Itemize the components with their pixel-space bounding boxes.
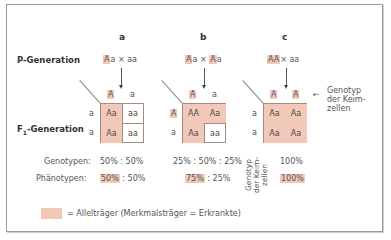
column-label-a: a bbox=[119, 32, 125, 42]
punnett-cell: Aa bbox=[101, 104, 123, 124]
punnett-square-b: AA Aa Aa aa bbox=[182, 103, 226, 143]
gamete-top: A bbox=[270, 90, 277, 99]
legend-swatch bbox=[41, 208, 62, 219]
punnett-cell: Aa bbox=[183, 123, 205, 143]
genotypes-a: 50% : 50% bbox=[100, 157, 143, 166]
column-label-b: b bbox=[200, 32, 206, 42]
punnett-cell: Aa bbox=[204, 104, 226, 124]
punnett-cell: Aa bbox=[264, 123, 286, 143]
arrow-down-icon bbox=[204, 68, 205, 86]
genotypes-b: 25% : 50% : 25% bbox=[173, 157, 242, 166]
punnett-cell: aa bbox=[122, 104, 144, 124]
p-generation-label: P-Generation bbox=[17, 55, 80, 65]
punnett-cell: aa bbox=[204, 123, 226, 143]
phenotypes-label: Phänotypen: bbox=[36, 174, 86, 183]
gamete-left: a bbox=[252, 128, 257, 137]
gamete-top: A bbox=[107, 90, 114, 99]
punnett-cell: Aa bbox=[264, 104, 286, 124]
gamete-left: a bbox=[89, 109, 94, 118]
punnett-cell: aa bbox=[122, 123, 144, 143]
gamete-top: A bbox=[292, 90, 299, 99]
gamete-left: a bbox=[89, 128, 94, 137]
parents-c: AA× aa bbox=[267, 55, 299, 64]
gamete-top: A bbox=[189, 90, 196, 99]
arrow-left-icon: ← bbox=[313, 90, 320, 99]
punnett-cell: AA bbox=[183, 104, 205, 124]
genotypes-c: 100% bbox=[280, 157, 303, 166]
gamete-top: a bbox=[212, 90, 217, 99]
punnett-square-c: Aa Aa Aa Aa bbox=[263, 103, 307, 143]
phenotypes-c: 100% bbox=[280, 174, 305, 183]
gamete-top: a bbox=[130, 90, 135, 99]
phenotypes-b: 75% : 25% bbox=[185, 174, 230, 183]
punnett-square-a: Aa aa Aa aa bbox=[100, 103, 144, 143]
punnett-cell: Aa bbox=[285, 104, 307, 124]
f1-generation-label: F1-Generation bbox=[17, 124, 84, 136]
phenotypes-a: 50% : 50% bbox=[100, 174, 145, 183]
punnett-cell: Aa bbox=[101, 123, 123, 143]
gamete-left: a bbox=[171, 128, 176, 137]
genotypes-label: Genotypen: bbox=[44, 157, 91, 166]
legend-text: = Allelträger (Merkmalsträger = Erkrankt… bbox=[67, 209, 241, 218]
gamete-left: A bbox=[170, 109, 177, 118]
gamete-left: a bbox=[252, 109, 257, 118]
vertical-gamete-note: Genotyp der Keim- zellen bbox=[245, 155, 269, 195]
arrow-down-icon bbox=[121, 68, 122, 86]
gamete-genotype-note: Genotyp der Keim- zellen bbox=[327, 86, 366, 113]
arrow-down-icon bbox=[286, 68, 287, 86]
parents-b: Aa × Aa bbox=[185, 55, 222, 64]
punnett-cell: Aa bbox=[285, 123, 307, 143]
column-label-c: c bbox=[282, 32, 287, 42]
parents-a: Aa × aa bbox=[103, 55, 137, 64]
